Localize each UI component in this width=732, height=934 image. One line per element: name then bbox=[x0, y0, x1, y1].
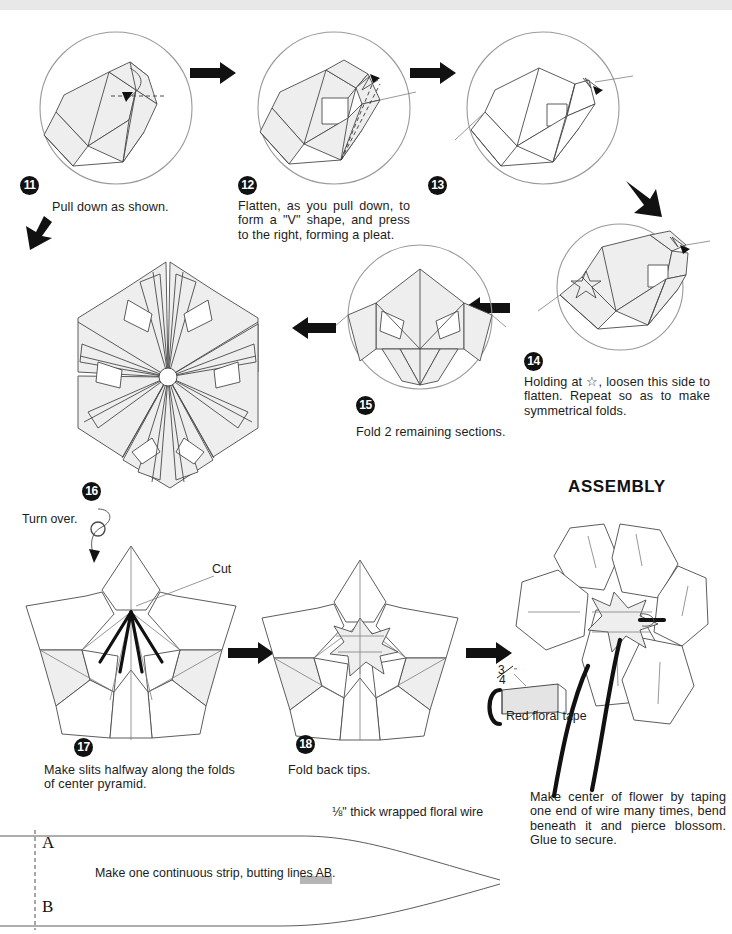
step-17-caption: Make slits halfway along the folds of ce… bbox=[44, 763, 244, 792]
step-14-paper bbox=[560, 231, 688, 329]
step-15-figure bbox=[330, 255, 510, 405]
step-number-14: 14 bbox=[524, 352, 543, 371]
step-14-caption: Holding at ☆, loosen this side to flatte… bbox=[524, 375, 710, 418]
rosette-center-hub bbox=[159, 368, 177, 386]
step-13-figure bbox=[455, 20, 635, 195]
step-18-figure bbox=[256, 556, 471, 741]
flow-arrow-13-to-14 bbox=[624, 175, 680, 231]
assembly-heading: ASSEMBLY bbox=[568, 477, 666, 497]
template-line-a-label: A bbox=[42, 833, 54, 853]
step-number-17: 17 bbox=[74, 738, 93, 757]
flow-arrow-15-to-16 bbox=[288, 315, 338, 341]
step-number-16: 16 bbox=[82, 482, 101, 501]
top-margin-band bbox=[0, 0, 732, 10]
step-number-15: 15 bbox=[356, 396, 375, 415]
step-12-paper bbox=[260, 60, 380, 164]
floral-wire-label: ⅛" thick wrapped floral wire bbox=[332, 805, 483, 819]
step-number-18: 18 bbox=[296, 735, 315, 754]
template-line-b-label: B bbox=[42, 897, 53, 917]
step-18-caption: Fold back tips. bbox=[288, 763, 448, 777]
step-17-blossom bbox=[26, 546, 236, 740]
flow-arrow-12-to-13 bbox=[410, 60, 458, 86]
step-number-12: 12 bbox=[238, 176, 257, 195]
svg-text:": " bbox=[514, 666, 517, 675]
turn-over-label: Turn over. bbox=[22, 512, 77, 526]
step-11-figure bbox=[26, 20, 206, 195]
step-12-caption: Flatten, as you pull down, to form a "V"… bbox=[238, 199, 410, 242]
step-number-13: 13 bbox=[428, 176, 447, 195]
tape-width-fraction: 3 4 " bbox=[495, 664, 529, 686]
step-12-figure bbox=[244, 20, 424, 195]
svg-text:4: 4 bbox=[499, 673, 506, 687]
step-15-paper bbox=[348, 269, 492, 385]
cut-label: Cut bbox=[212, 562, 231, 576]
flow-arrow-11-to-12 bbox=[190, 60, 238, 86]
step-11-caption: Pull down as shown. bbox=[52, 200, 202, 214]
step-16-rosette bbox=[78, 262, 258, 488]
step-number-11: 11 bbox=[20, 176, 39, 195]
red-floral-tape-label: Red floral tape bbox=[506, 709, 587, 723]
step-15-caption: Fold 2 remaining sections. bbox=[356, 425, 556, 439]
leaf-strip-template bbox=[0, 826, 500, 934]
instruction-sheet: 11 Pull down as shown. bbox=[0, 0, 732, 934]
strip-caption: Make one continuous strip, butting lines… bbox=[95, 866, 335, 880]
step-13-paper bbox=[471, 68, 595, 166]
step-14-figure bbox=[520, 225, 710, 365]
assembly-caption: Make center of flower by taping one end … bbox=[530, 790, 726, 848]
step-16-figure bbox=[48, 252, 288, 502]
flow-arrow-up-left bbox=[22, 210, 66, 254]
